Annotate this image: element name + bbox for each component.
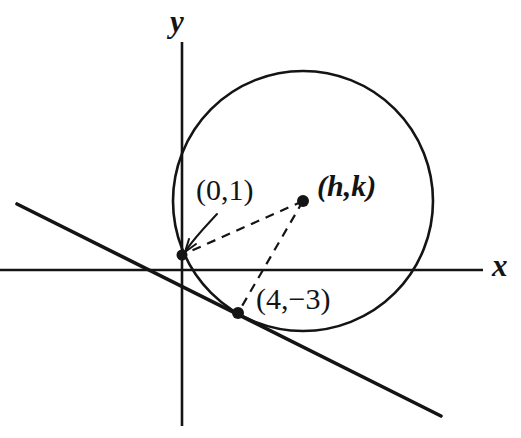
point-dot-0-1 (177, 250, 188, 261)
geometry-diagram: y x (0,1) (h,k) (4,−3) (0, 0, 521, 438)
point-label-0-1: (0,1) (196, 173, 253, 207)
x-axis-label: x (491, 248, 508, 283)
radius-segment-to-0-1 (182, 201, 303, 255)
annotation-arrow-curve (187, 214, 217, 249)
point-dot-4-neg3 (232, 307, 244, 319)
figure-canvas: y x (0,1) (h,k) (4,−3) (0, 0, 521, 438)
point-label-4-neg3: (4,−3) (256, 282, 330, 316)
y-axis-label: y (166, 4, 184, 39)
point-label-h-k: (h,k) (317, 169, 376, 203)
tangent-line (17, 204, 441, 416)
point-dot-h-k (297, 195, 309, 207)
